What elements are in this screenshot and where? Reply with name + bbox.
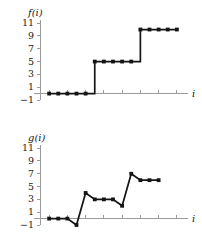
y-axis-title-f: f(i) — [27, 7, 43, 18]
data-point-f-14 — [175, 28, 179, 32]
y-tick-label-f-0: −1 — [20, 94, 34, 105]
y-tick-label-g-0: −1 — [20, 219, 34, 230]
data-point-g-8 — [120, 204, 124, 208]
chart-panel-f: −11357911 f(i) i — [0, 0, 202, 125]
data-point-f-5 — [93, 60, 97, 64]
y-tick-label-f-3: 5 — [28, 56, 34, 67]
chart-svg-f: −11357911 f(i) i — [0, 0, 202, 125]
y-tick-label-f-2: 3 — [28, 68, 34, 79]
y-tick-label-f-6: 11 — [22, 17, 34, 28]
figure-container: −11357911 f(i) i −11357911 g(i) i — [0, 0, 202, 251]
data-point-f-4 — [84, 92, 88, 96]
y-tick-label-f-4: 7 — [28, 43, 34, 54]
data-point-g-4 — [84, 191, 88, 195]
y-tick-label-g-5: 9 — [28, 155, 34, 166]
data-point-f-7 — [111, 60, 115, 64]
y-tick-label-g-2: 3 — [28, 193, 34, 204]
data-point-f-3 — [75, 92, 79, 96]
data-point-f-13 — [166, 28, 170, 32]
data-point-g-9 — [129, 172, 133, 176]
data-point-g-6 — [102, 197, 106, 201]
y-tick-label-f-1: 1 — [28, 81, 34, 92]
axes-f — [34, 20, 188, 100]
axes-g — [34, 145, 188, 225]
data-point-f-6 — [102, 60, 106, 64]
y-tick-label-f-5: 9 — [28, 30, 34, 41]
data-point-f-1 — [56, 92, 60, 96]
data-point-f-11 — [148, 28, 152, 32]
data-point-g-0 — [47, 217, 51, 221]
data-point-g-5 — [93, 197, 97, 201]
tick-labels-g: −11357911 — [20, 142, 34, 230]
ticks-g — [37, 148, 177, 225]
data-point-g-10 — [138, 178, 142, 182]
series-f — [47, 28, 179, 96]
data-point-g-11 — [148, 178, 152, 182]
chart-svg-g: −11357911 g(i) i — [0, 125, 202, 250]
data-point-f-0 — [47, 92, 51, 96]
data-point-f-2 — [65, 92, 69, 96]
y-tick-label-g-1: 1 — [28, 206, 34, 217]
data-point-g-2 — [65, 217, 69, 221]
x-axis-title-f: i — [192, 88, 195, 99]
data-point-f-12 — [157, 28, 161, 32]
data-point-g-3 — [75, 223, 79, 227]
y-axis-title-g: g(i) — [28, 132, 46, 143]
y-tick-label-g-3: 5 — [28, 181, 34, 192]
y-tick-label-g-4: 7 — [28, 168, 34, 179]
data-point-f-8 — [120, 60, 124, 64]
data-point-g-7 — [111, 197, 115, 201]
chart-panel-g: −11357911 g(i) i — [0, 125, 202, 250]
data-point-g-1 — [56, 217, 60, 221]
tick-labels-f: −11357911 — [20, 17, 34, 105]
y-tick-label-g-6: 11 — [22, 142, 34, 153]
data-point-f-10 — [138, 28, 142, 32]
data-point-f-9 — [129, 60, 133, 64]
data-point-g-12 — [157, 178, 161, 182]
x-axis-title-g: i — [192, 213, 195, 224]
